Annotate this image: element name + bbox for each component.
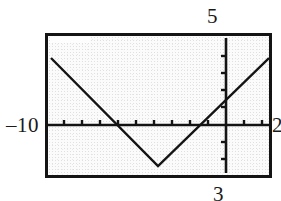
plot-frame <box>45 33 272 178</box>
plot-canvas <box>48 36 269 175</box>
axis-label-xmin: –10 <box>6 115 39 136</box>
axis-label-xmax: 2 <box>272 115 281 136</box>
axis-label-ymax: 5 <box>207 6 218 27</box>
graph-figure: 5 –10 2 3 <box>0 0 281 201</box>
absolute-value-curve <box>51 58 269 166</box>
x-axis <box>48 120 269 125</box>
axis-label-ymin: 3 <box>213 184 224 201</box>
